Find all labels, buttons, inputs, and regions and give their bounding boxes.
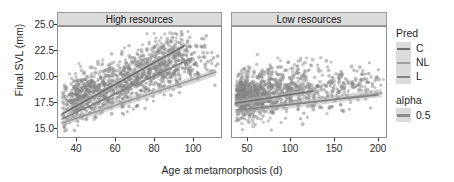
legend-title-alpha: alpha (396, 95, 454, 106)
x-tick-mark (334, 138, 335, 141)
panel-high-resources (57, 26, 222, 138)
legend-label: C (416, 43, 424, 54)
y-tick-label: 17.5 (16, 98, 54, 108)
legend-label: L (416, 71, 422, 82)
y-tick-label: 15.0 (16, 124, 54, 134)
x-tick-label: 40 (59, 144, 93, 154)
legend-item-c[interactable]: C (396, 42, 454, 56)
x-tick-label: 60 (98, 144, 132, 154)
facet-strip-low-resources: Low resources (231, 12, 387, 26)
legend-item-alpha-05[interactable]: 0.5 (396, 108, 454, 122)
y-tick-label: 25.0 (16, 20, 54, 30)
legend-key-line-icon (396, 70, 411, 84)
legend-key-line-icon (396, 108, 411, 122)
legend-title-pred: Pred (396, 28, 454, 39)
legend-label: NL (416, 57, 429, 68)
x-tick-mark (76, 138, 77, 141)
scatter-plot-figure: Final SVL (mm) 25.0 22.5 20.0 17.5 15.0 … (0, 0, 454, 182)
legend-item-l[interactable]: L (396, 70, 454, 84)
x-tick-label: 200 (361, 144, 395, 154)
legend-key-line-icon (396, 42, 411, 56)
legend-label: 0.5 (416, 110, 431, 121)
legend-group-pred: Pred C NL L (396, 28, 454, 84)
y-tick-label: 22.5 (16, 46, 54, 56)
x-axis-title: Age at metamorphosis (d) (57, 164, 387, 176)
legend-group-alpha: alpha 0.5 (396, 95, 454, 123)
panel-low-canvas (232, 27, 387, 138)
panel-high-canvas (58, 27, 222, 138)
x-tick-label: 100 (273, 144, 307, 154)
legend-items-pred: C NL L (396, 42, 454, 84)
y-axis-ticks: 25.0 22.5 20.0 17.5 15.0 (10, 0, 54, 182)
legend: Pred C NL L alpha (396, 28, 454, 122)
x-tick-mark (115, 138, 116, 141)
facet-strip-high-resources: High resources (57, 12, 222, 26)
x-tick-mark (247, 138, 248, 141)
x-tick-mark (378, 138, 379, 141)
x-tick-mark (290, 138, 291, 141)
legend-items-alpha: 0.5 (396, 108, 454, 122)
x-tick-label: 100 (176, 144, 210, 154)
legend-item-nl[interactable]: NL (396, 56, 454, 70)
panel-low-resources (231, 26, 387, 138)
x-tick-label: 150 (317, 144, 351, 154)
x-tick-label: 50 (230, 144, 264, 154)
y-tick-label: 20.0 (16, 72, 54, 82)
x-tick-mark (154, 138, 155, 141)
x-tick-label: 80 (137, 144, 171, 154)
legend-key-line-icon (396, 56, 411, 70)
x-tick-mark (193, 138, 194, 141)
